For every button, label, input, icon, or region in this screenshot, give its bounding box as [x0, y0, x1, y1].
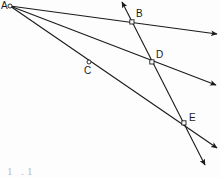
point-marker-e — [182, 121, 186, 125]
point-label-c: C — [84, 66, 91, 76]
point-markers-group — [8, 4, 186, 125]
point-label-e: E — [189, 113, 196, 123]
point-marker-d — [150, 60, 154, 64]
point-label-b: B — [136, 9, 143, 19]
geometry-canvas — [0, 0, 220, 178]
point-marker-a — [8, 4, 12, 8]
point-label-d: D — [156, 50, 163, 60]
point-marker-b — [130, 20, 134, 24]
point-label-a: A — [1, 1, 8, 11]
point-marker-c — [87, 60, 91, 64]
ray-a-to-d — [10, 6, 216, 85]
figure-caption: 1 .1 — [7, 166, 36, 177]
ray-a-to-b — [10, 6, 217, 34]
geometry-figure: A B C D E 1 .1 — [0, 0, 220, 178]
